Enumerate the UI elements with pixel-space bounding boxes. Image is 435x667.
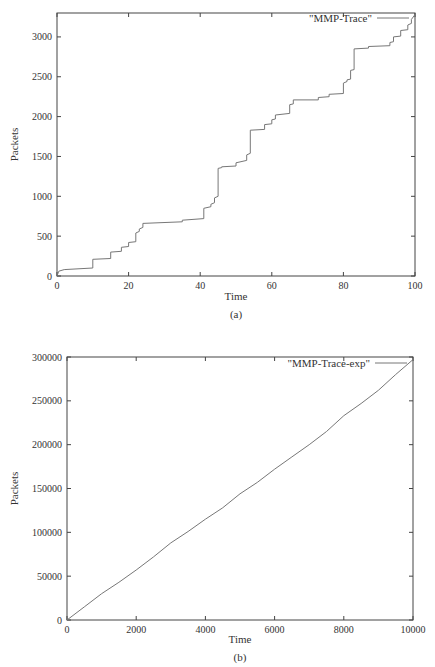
x-tick-label: 6000 xyxy=(265,624,285,635)
y-tick-label: 0 xyxy=(57,615,62,626)
x-tick-label: 60 xyxy=(267,280,277,291)
y-tick-label: 2500 xyxy=(32,71,52,82)
y-tick-label: 3000 xyxy=(32,31,52,42)
y-tick-label: 50000 xyxy=(37,571,62,582)
plot-frame xyxy=(67,357,413,620)
y-axis-title: Packets xyxy=(8,472,20,506)
x-tick-label: 8000 xyxy=(334,624,354,635)
y-tick-label: 250000 xyxy=(32,395,62,406)
figure: 020406080100050010001500200025003000Time… xyxy=(0,0,435,667)
x-tick-label: 80 xyxy=(338,280,348,291)
y-tick-label: 500 xyxy=(37,231,52,242)
y-tick-label: 200000 xyxy=(32,439,62,450)
x-tick-label: 100 xyxy=(408,280,423,291)
x-tick-label: 0 xyxy=(65,624,70,635)
plot-frame xyxy=(57,13,415,276)
figure-caption: (b) xyxy=(234,651,247,664)
series-line xyxy=(57,15,415,276)
chart-a: 020406080100050010001500200025003000Time… xyxy=(8,12,423,321)
y-tick-label: 0 xyxy=(47,271,52,282)
series-line xyxy=(67,360,413,620)
x-tick-label: 2000 xyxy=(126,624,146,635)
x-tick-label: 10000 xyxy=(401,624,426,635)
y-axis-title: Packets xyxy=(8,128,20,162)
y-tick-label: 100000 xyxy=(32,527,62,538)
x-axis-title: Time xyxy=(225,290,248,302)
figure-caption: (a) xyxy=(230,308,243,321)
legend-label: "MMP-Trace" xyxy=(309,12,372,24)
x-tick-label: 20 xyxy=(124,280,134,291)
x-tick-label: 40 xyxy=(195,280,205,291)
y-tick-label: 2000 xyxy=(32,111,52,122)
x-axis-title: Time xyxy=(229,633,252,645)
y-tick-label: 300000 xyxy=(32,352,62,363)
legend-label: "MMP-Trace-exp" xyxy=(287,357,370,369)
y-tick-label: 1500 xyxy=(32,151,52,162)
y-tick-label: 1000 xyxy=(32,191,52,202)
chart-b: 0200040006000800010000050000100000150000… xyxy=(8,352,426,665)
x-tick-label: 4000 xyxy=(195,624,215,635)
y-tick-label: 150000 xyxy=(32,483,62,494)
x-tick-label: 0 xyxy=(55,280,60,291)
